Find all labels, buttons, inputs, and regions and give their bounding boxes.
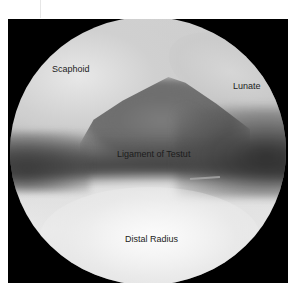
label-scaphoid: Scaphoid: [52, 65, 90, 74]
left-shadow: [10, 132, 90, 192]
label-lunate: Lunate: [233, 82, 261, 91]
label-distal-radius: Distal Radius: [125, 235, 178, 244]
label-ligament-of-testut: Ligament of Testut: [117, 150, 190, 159]
scan-artifact-line: [40, 0, 41, 18]
right-shadow: [176, 107, 286, 197]
